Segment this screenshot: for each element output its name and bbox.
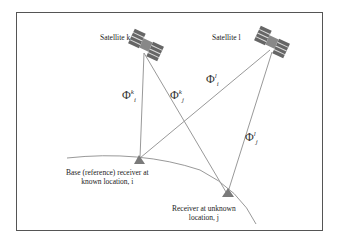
unknown-receiver-label: Receiver at unknown location, j <box>172 204 236 222</box>
base-receiver-icon <box>134 155 145 164</box>
base-receiver-label-line2: known location, i <box>66 177 149 186</box>
satellite-k-label: Satellite k <box>100 33 130 42</box>
range-label-k-i: Φki <box>122 88 136 104</box>
base-receiver-label: Base (reference) receiver at known locat… <box>66 168 149 186</box>
unknown-receiver-icon <box>222 188 234 197</box>
satellite-l-label: Satellite l <box>212 33 241 42</box>
range-label-l-j: Φlj <box>245 130 258 146</box>
range-line-k-i <box>140 53 144 158</box>
base-receiver-label-line1: Base (reference) receiver at <box>66 168 149 177</box>
diagram-graphics <box>0 0 341 246</box>
range-label-l-i: Φli <box>206 72 219 88</box>
unknown-receiver-label-line1: Receiver at unknown <box>172 204 236 213</box>
range-line-l-j <box>228 52 272 192</box>
unknown-receiver-label-line2: location, j <box>172 213 236 222</box>
range-label-k-j: Φkj <box>170 88 184 104</box>
